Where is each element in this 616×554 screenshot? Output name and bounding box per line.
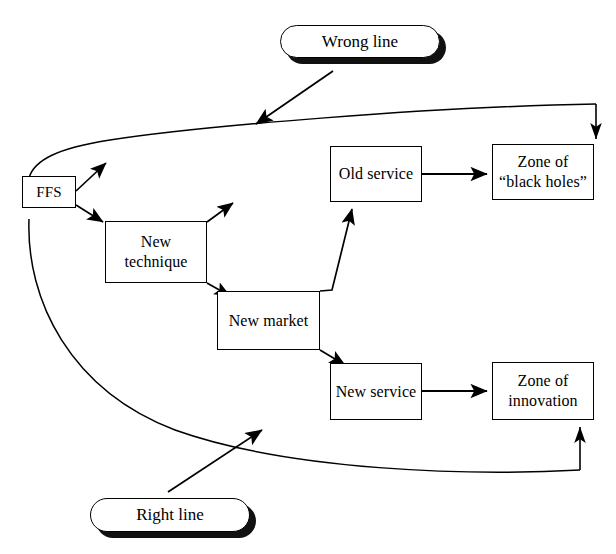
diagram-canvas: FFS Newtechnique New market Old service … xyxy=(0,0,616,554)
edge-right-line-pointer xyxy=(168,430,262,492)
edge-ffs-to-new-technique xyxy=(76,205,103,222)
callout-right-line-body[interactable]: Right line xyxy=(90,498,250,532)
node-ffs[interactable]: FFS xyxy=(22,176,76,208)
callout-right-line[interactable]: Right line xyxy=(90,498,250,532)
callout-wrong-line[interactable]: Wrong line xyxy=(280,25,440,58)
node-ffs-label: FFS xyxy=(32,183,65,201)
node-old-service-label: Old service xyxy=(335,164,417,184)
node-zone-innovation[interactable]: Zone ofinnovation xyxy=(492,362,594,420)
edge-ffs-to-upper-right xyxy=(76,163,106,191)
node-new-technique-label: Newtechnique xyxy=(120,232,191,271)
node-zone-black-holes-label: Zone of“black holes” xyxy=(495,152,591,191)
callout-right-line-label: Right line xyxy=(136,505,204,525)
node-new-technique[interactable]: Newtechnique xyxy=(105,221,207,283)
node-new-service[interactable]: New service xyxy=(330,363,422,420)
node-new-market-label: New market xyxy=(225,311,313,331)
node-new-market[interactable]: New market xyxy=(217,291,320,350)
edge-new-technique-to-upper-right xyxy=(207,203,233,222)
edge-wrong-line-pointer xyxy=(256,71,333,124)
connector-layer xyxy=(0,0,616,554)
node-zone-innovation-label: Zone ofinnovation xyxy=(504,371,581,410)
node-zone-black-holes[interactable]: Zone of“black holes” xyxy=(492,144,594,200)
callout-wrong-line-body[interactable]: Wrong line xyxy=(280,25,440,58)
callout-wrong-line-label: Wrong line xyxy=(322,32,398,52)
node-old-service[interactable]: Old service xyxy=(330,146,422,202)
node-new-service-label: New service xyxy=(332,382,421,402)
edge-new-market-to-old-service xyxy=(320,209,352,291)
